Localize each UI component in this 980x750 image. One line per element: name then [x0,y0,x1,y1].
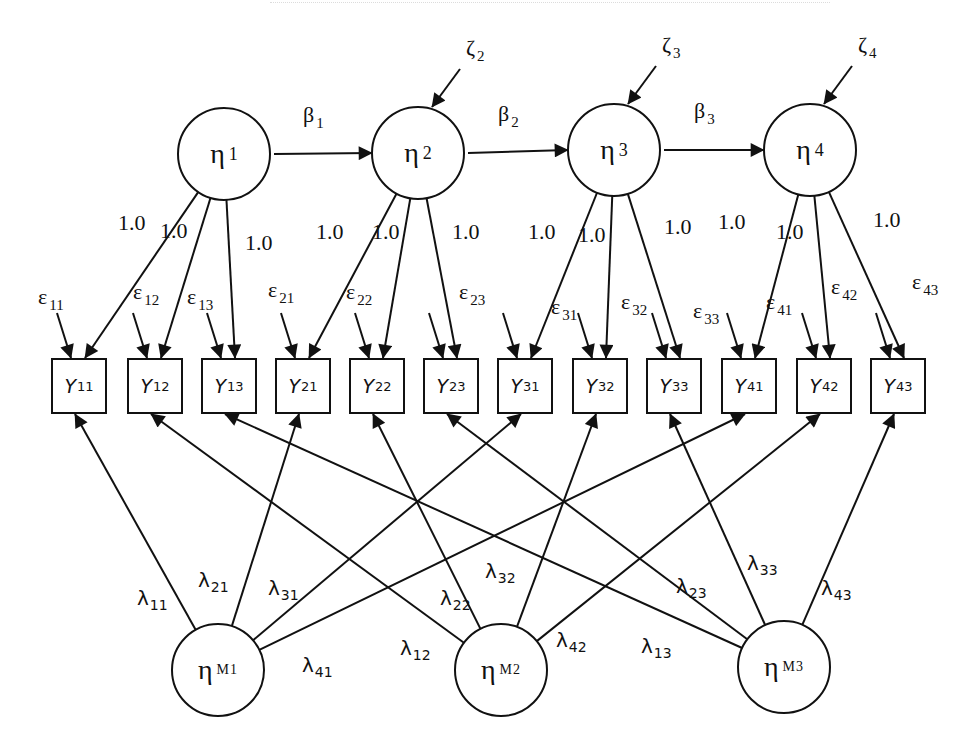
error-label-11: ε11 [38,286,64,313]
trait-factor-label-3: η3 [568,104,660,196]
error-arrow-Y13 [207,313,221,358]
error-label-32: ε32 [621,291,647,318]
method-loading-label-13: λ13 [641,636,672,660]
error-arrow-Y41 [727,313,741,358]
beta-path-arrow-1 [274,153,372,154]
error-label-42: ε42 [831,276,857,303]
beta-label-1: β1 [303,104,324,131]
error-arrow-Y12 [133,313,147,358]
indicator-label-Y12: Y12 [128,359,182,413]
indicator-label-Y41: Y41 [722,359,776,413]
trait-loading-value-11: 1.0 [776,221,804,243]
error-label-41: ε41 [766,291,792,318]
method-loading-label-32: λ32 [485,561,516,585]
trait-loading-value-5: 1.0 [372,221,400,243]
method-loading-label-31: λ31 [268,578,299,602]
method-loading-label-33: λ33 [747,553,778,577]
trait-loading-arrow-Y31 [531,193,597,358]
error-arrow-Y32 [578,313,592,358]
error-label-22: ε22 [346,281,372,308]
method-loading-label-21: λ21 [198,570,229,594]
method-loading-label-11: λ11 [137,588,168,612]
method-loading-arrow-Y11 [75,414,196,630]
trait-loading-value-12: 1.0 [873,209,901,231]
trait-loading-value-8: 1.0 [578,224,606,246]
error-label-13: ε13 [187,286,213,313]
method-loading-arrow-Y32 [517,414,596,627]
beta-label-3: β3 [694,100,715,127]
trait-loading-value-2: 1.0 [160,220,188,242]
beta-label-2: β2 [498,103,519,130]
zeta-arrow-3 [628,66,656,104]
zeta-label-2: ζ2 [466,37,485,64]
indicator-label-Y42: Y42 [797,359,851,413]
error-arrow-Y21 [281,313,295,358]
error-arrow-Y11 [57,313,71,358]
method-loading-arrow-Y23 [447,414,747,639]
trait-loading-arrow-Y13 [226,200,235,358]
method-loading-arrow-Y12 [151,414,464,643]
method-loading-arrow-Y31 [253,414,521,640]
error-arrow-Y23 [429,313,443,358]
indicator-label-Y31: Y31 [498,359,552,413]
method-loading-label-22: λ22 [440,588,471,612]
error-arrow-Y22 [355,313,369,358]
error-arrow-Y42 [802,313,816,358]
indicator-label-Y21: Y21 [276,359,330,413]
trait-loading-value-9: 1.0 [664,216,692,238]
trait-loading-value-6: 1.0 [452,221,480,243]
indicator-label-Y22: Y22 [350,359,404,413]
error-label-33: ε33 [693,300,719,327]
error-arrow-Y43 [876,313,890,358]
indicator-label-Y32: Y32 [573,359,627,413]
beta-path-arrow-2 [468,150,568,153]
trait-loading-value-4: 1.0 [316,221,344,243]
error-label-43: ε43 [912,271,938,298]
trait-loading-arrow-Y32 [606,196,612,358]
error-label-21: ε21 [268,279,294,306]
method-loading-arrow-Y13 [225,414,742,648]
sem-diagram: β1β2β3ζ2ζ3ζ4Y11Y12Y13Y21Y22Y23Y31Y32Y33Y… [0,0,980,750]
error-label-31: ε31 [551,296,577,323]
zeta-arrow-2 [432,69,460,107]
method-loading-label-42: λ42 [556,630,587,654]
error-label-23: ε23 [459,281,485,308]
method-loading-arrow-Y42 [537,414,820,641]
trait-factor-label-1: η1 [178,108,270,200]
trait-loading-value-10: 1.0 [718,211,746,233]
method-factor-label-M2: ηM2 [455,624,547,716]
error-arrow-Y31 [503,313,517,358]
zeta-label-3: ζ3 [662,34,681,61]
indicator-label-Y23: Y23 [424,359,478,413]
error-arrow-Y33 [652,313,666,358]
method-loading-label-41: λ41 [302,655,333,679]
method-loading-label-23: λ23 [676,576,707,600]
indicator-label-Y33: Y33 [647,359,701,413]
trait-loading-value-7: 1.0 [528,221,556,243]
method-factor-label-M3: ηM3 [738,621,830,713]
zeta-arrow-4 [824,66,852,104]
trait-factor-label-2: η2 [372,107,464,199]
indicator-label-Y11: Y11 [52,359,106,413]
indicator-label-Y43: Y43 [871,359,925,413]
trait-loading-arrow-Y42 [814,196,830,358]
method-loading-label-43: λ43 [821,578,852,602]
indicator-label-Y13: Y13 [202,359,256,413]
trait-loading-value-3: 1.0 [245,232,273,254]
error-label-12: ε12 [133,281,159,308]
zeta-label-4: ζ4 [858,34,877,61]
method-factor-label-M1: ηM1 [172,624,264,716]
trait-factor-label-4: η4 [764,104,856,196]
trait-loading-value-1: 1.0 [118,212,146,234]
method-loading-label-12: λ12 [400,638,431,662]
